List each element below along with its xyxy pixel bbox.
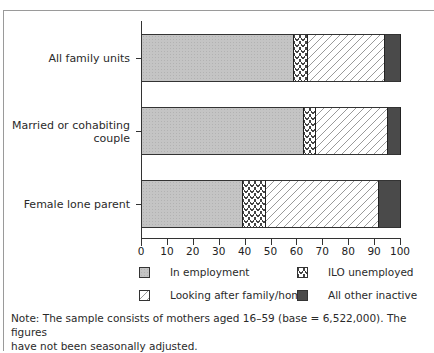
segment-ilo-unemployed bbox=[294, 34, 308, 82]
x-tick bbox=[219, 238, 220, 245]
legend-swatch-other-inactive bbox=[297, 290, 308, 301]
segment-all-other-inactive bbox=[379, 180, 401, 228]
x-tick bbox=[271, 238, 272, 245]
bar-female-lone-parent bbox=[142, 180, 401, 228]
x-tick bbox=[374, 238, 375, 245]
legend-swatch-employment bbox=[139, 267, 150, 278]
legend-label: Looking after family/home bbox=[170, 289, 308, 301]
segment-in-employment bbox=[142, 107, 304, 155]
x-tick bbox=[193, 238, 194, 245]
x-tick bbox=[400, 238, 401, 245]
category-label-line: Married or cohabiting bbox=[12, 119, 130, 132]
legend-swatch-ilo bbox=[297, 267, 308, 278]
segment-in-employment bbox=[142, 180, 243, 228]
category-label-line: couple bbox=[12, 132, 130, 145]
segment-ilo-unemployed bbox=[304, 107, 316, 155]
legend-item-all-other-inactive: All other inactive bbox=[297, 289, 417, 301]
x-tick bbox=[348, 238, 349, 245]
segment-all-other-inactive bbox=[385, 34, 401, 82]
segment-looking-after-family bbox=[316, 107, 389, 155]
x-tick bbox=[141, 238, 142, 245]
segment-all-other-inactive bbox=[388, 107, 401, 155]
category-label-female-lone-parent: Female lone parent bbox=[24, 198, 130, 211]
x-tick bbox=[296, 238, 297, 245]
chart-note: Note: The sample consists of mothers age… bbox=[11, 311, 411, 353]
legend-label: ILO unemployed bbox=[328, 266, 414, 278]
segment-looking-after-family bbox=[308, 34, 386, 82]
note-line: have not been seasonally adjusted. bbox=[11, 339, 411, 353]
segment-ilo-unemployed bbox=[243, 180, 266, 228]
category-label-all-family-units: All family units bbox=[48, 52, 130, 65]
x-tick-label: 100 bbox=[385, 245, 415, 257]
legend-swatch-looking-after bbox=[139, 290, 150, 301]
segment-in-employment bbox=[142, 34, 294, 82]
legend-label: All other inactive bbox=[328, 289, 417, 301]
x-tick bbox=[322, 238, 323, 245]
legend-label: In employment bbox=[170, 266, 249, 278]
legend-item-in-employment: In employment bbox=[139, 266, 249, 278]
note-line: Note: The sample consists of mothers age… bbox=[11, 311, 411, 339]
category-label-married-couple: Married or cohabiting couple bbox=[12, 119, 130, 145]
segment-looking-after-family bbox=[266, 180, 379, 228]
x-tick bbox=[245, 238, 246, 245]
bar-married-or-cohabiting-couple bbox=[142, 107, 401, 155]
bar-all-family-units bbox=[142, 34, 401, 82]
legend-item-looking-after-family: Looking after family/home bbox=[139, 289, 308, 301]
legend-item-ilo-unemployed: ILO unemployed bbox=[297, 266, 414, 278]
x-tick bbox=[167, 238, 168, 245]
